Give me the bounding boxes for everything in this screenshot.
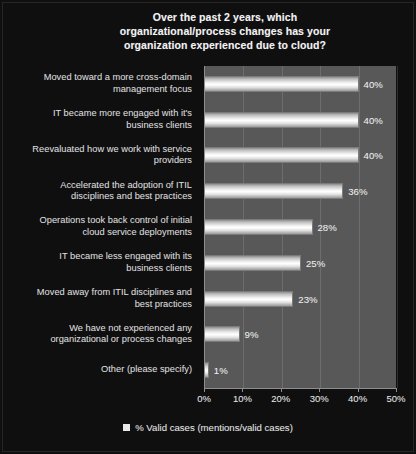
- x-axis-tick-label: 20%: [271, 393, 290, 404]
- bar: [205, 255, 301, 271]
- category-label-line: IT became less engaged with its: [59, 251, 192, 263]
- x-axis-tick: [204, 388, 205, 392]
- bar-row: 40%: [205, 147, 397, 163]
- category-axis: Moved toward a more cross-domainmanageme…: [8, 66, 198, 388]
- category-label-line: business clients: [53, 120, 192, 132]
- category-label-line: management focus: [44, 84, 192, 96]
- bar-value-label: 40%: [364, 114, 383, 125]
- bar: [205, 219, 313, 235]
- x-axis-tick-label: 10%: [233, 393, 252, 404]
- bar-value-label: 28%: [318, 222, 337, 233]
- category-label-line: Operations took back control of initial: [40, 215, 192, 227]
- bar-value-label: 9%: [245, 329, 259, 340]
- category-label: We have not experienced anyorganizationa…: [8, 322, 198, 347]
- category-label-line: We have not experienced any: [50, 323, 192, 335]
- category-label: IT became more engaged with it'sbusiness…: [8, 107, 198, 132]
- bar: [205, 147, 359, 163]
- bar-value-label: 36%: [348, 186, 367, 197]
- bar-value-label: 25%: [306, 257, 325, 268]
- category-label-line: organizational or process changes: [50, 334, 192, 346]
- category-label-line: business clients: [59, 263, 192, 275]
- bar: [205, 362, 209, 378]
- category-label-line: Accelerated the adoption of ITIL: [60, 180, 192, 192]
- x-axis-tick: [358, 388, 359, 392]
- category-label-line: Reevaluated how we work with service: [32, 144, 192, 156]
- bar-chart-figure: Over the past 2 years, which organizatio…: [0, 0, 416, 454]
- category-label-line: Moved away from ITIL disciplines and: [37, 287, 192, 299]
- chart-title-line-2: organizational/process changes has your: [92, 24, 358, 38]
- x-axis-tick-label: 40%: [348, 393, 367, 404]
- category-label-line: Other (please specify): [101, 364, 192, 376]
- bar-value-label: 23%: [298, 293, 317, 304]
- category-label-line: providers: [32, 155, 192, 167]
- x-axis-tick: [242, 388, 243, 392]
- legend-item-label: % Valid cases (mentions/valid cases): [135, 422, 293, 433]
- category-label-line: IT became more engaged with it's: [53, 108, 192, 120]
- bar-row: 36%: [205, 183, 397, 199]
- bar-value-label: 40%: [364, 78, 383, 89]
- x-axis-tick-label: 50%: [386, 393, 405, 404]
- x-axis-line: [204, 388, 396, 389]
- chart-title: Over the past 2 years, which organizatio…: [92, 10, 358, 53]
- category-label-line: cloud service deployments: [40, 227, 192, 239]
- x-axis-tick-label: 0%: [197, 393, 211, 404]
- bar-row: 40%: [205, 76, 397, 92]
- bar: [205, 76, 359, 92]
- bar-value-label: 1%: [214, 365, 228, 376]
- bar: [205, 291, 293, 307]
- bar-row: 28%: [205, 219, 397, 235]
- x-axis-tick: [281, 388, 282, 392]
- category-label: Accelerated the adoption of ITILdiscipli…: [8, 179, 198, 204]
- chart-title-line-1: Over the past 2 years, which: [92, 10, 358, 24]
- category-label: Operations took back control of initialc…: [8, 214, 198, 239]
- category-label-line: disciplines and best practices: [60, 191, 192, 203]
- chart-title-line-3: organization experienced due to cloud?: [92, 38, 358, 52]
- x-axis-tick: [319, 388, 320, 392]
- category-label: Moved away from ITIL disciplines andbest…: [8, 286, 198, 311]
- x-axis-tick-label: 30%: [310, 393, 329, 404]
- category-label: Other (please specify): [8, 363, 198, 377]
- bar-row: 25%: [205, 255, 397, 271]
- bar: [205, 326, 240, 342]
- category-label: Reevaluated how we work with serviceprov…: [8, 143, 198, 168]
- plot-area: 40%40%40%36%28%25%23%9%1%: [204, 66, 396, 388]
- bar-value-label: 40%: [364, 150, 383, 161]
- category-label: IT became less engaged with itsbusiness …: [8, 250, 198, 275]
- bar-row: 23%: [205, 291, 397, 307]
- bar-row: 1%: [205, 362, 397, 378]
- bar-row: 9%: [205, 326, 397, 342]
- bar: [205, 112, 359, 128]
- category-label-line: best practices: [37, 299, 192, 311]
- legend-swatch-icon: [123, 424, 130, 431]
- bar-row: 40%: [205, 112, 397, 128]
- chart-legend: % Valid cases (mentions/valid cases): [0, 422, 416, 433]
- gridline: [397, 66, 398, 388]
- category-label-line: Moved toward a more cross-domain: [44, 72, 192, 84]
- x-axis-tick: [396, 388, 397, 392]
- category-label: Moved toward a more cross-domainmanageme…: [8, 71, 198, 96]
- bar: [205, 183, 343, 199]
- x-axis: 0%10%20%30%40%50%: [204, 388, 396, 406]
